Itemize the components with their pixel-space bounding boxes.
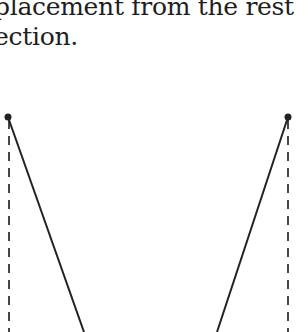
right-displaced-string <box>217 117 288 332</box>
pendulum-diagram <box>0 0 308 332</box>
right-pivot-point <box>285 114 292 121</box>
left-pivot-point <box>5 114 12 121</box>
left-displaced-string <box>8 117 84 332</box>
